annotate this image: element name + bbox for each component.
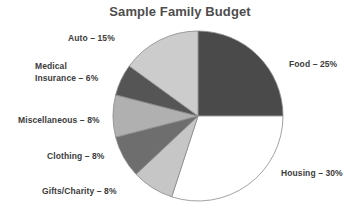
pie-label-housing: Housing – 30% xyxy=(281,167,343,179)
pie-label-auto: Auto – 15% xyxy=(68,32,115,44)
pie-slice-group xyxy=(113,31,283,201)
chart-page: Sample Family Budget Food – 25% Housing … xyxy=(0,0,360,224)
pie-label-medical-line2: Insurance – 6% xyxy=(35,72,98,84)
pie-label-food: Food – 25% xyxy=(289,58,337,70)
pie-slice-food xyxy=(198,31,283,116)
pie-label-medical-line1: Medical xyxy=(35,61,67,71)
pie-label-clothing: Clothing – 8% xyxy=(47,150,105,162)
pie-label-miscellaneous: Miscellaneous – 8% xyxy=(18,114,100,126)
pie-label-medical-insurance: Medical Insurance – 6% xyxy=(35,60,98,84)
pie-label-gifts-charity: Gifts/Charity – 8% xyxy=(42,185,117,197)
